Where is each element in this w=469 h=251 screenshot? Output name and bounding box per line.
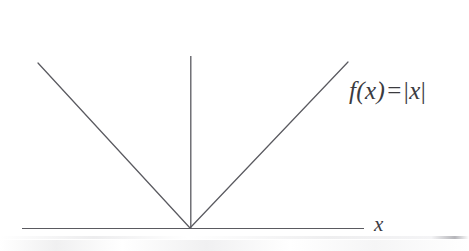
formula-equals-sign: = <box>385 77 404 104</box>
formula-abs-bar-right: | <box>421 77 426 104</box>
formula-argument: x <box>365 77 377 104</box>
absolute-value-figure: f(x)=|x| x <box>0 0 469 251</box>
formula-abs-argument: x <box>409 77 421 104</box>
formula-open-paren: ( <box>356 77 365 104</box>
absolute-value-left-branch <box>38 63 190 228</box>
figure-canvas <box>0 0 469 251</box>
x-axis-label: x <box>374 214 383 235</box>
absolute-value-right-branch <box>190 62 348 228</box>
function-formula-label: f(x)=|x| <box>349 78 426 103</box>
